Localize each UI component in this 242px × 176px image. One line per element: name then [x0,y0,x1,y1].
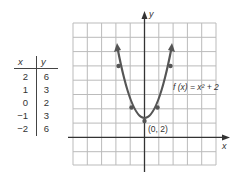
curve-arrow-right-icon [168,43,175,52]
x-axis-label: x [222,141,227,151]
y-axis-arrow-icon [142,11,148,19]
curve-arrow-left-icon [114,43,121,52]
x-axis-arrow-icon [222,134,230,140]
y-axis-label: y [149,9,154,19]
vertex-label: (0, 2) [148,124,168,134]
function-label: f (x) = x² + 2 [173,82,219,92]
